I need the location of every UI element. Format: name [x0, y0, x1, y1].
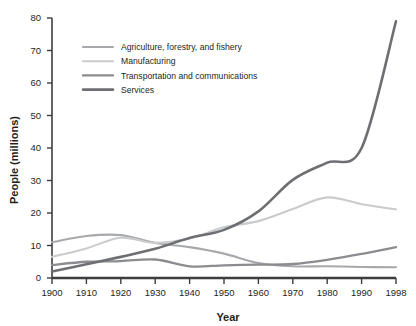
legend-label: Manufacturing [121, 56, 176, 66]
x-tick-label: 1910 [76, 287, 97, 298]
x-tick-label: 1950 [213, 287, 234, 298]
y-tick-label: 20 [30, 207, 41, 218]
x-tick-label: 1998 [385, 287, 406, 298]
chart-legend: Agriculture, forestry, and fisheryManufa… [83, 42, 257, 95]
y-tick-label: 40 [30, 142, 41, 153]
y-tick-label: 10 [30, 240, 41, 251]
series-line [52, 247, 396, 266]
x-tick-label: 1920 [110, 287, 131, 298]
legend-label: Transportation and communications [121, 71, 257, 81]
y-tick-label: 80 [30, 12, 41, 23]
x-tick-label: 1980 [317, 287, 338, 298]
x-tick-label: 1990 [351, 287, 372, 298]
x-tick-label: 1970 [282, 287, 303, 298]
y-axis-title: People (millions) [8, 116, 20, 204]
x-tick-label: 1930 [145, 287, 166, 298]
chart-canvas: 01020304050607080 1900191019201930194019… [0, 0, 416, 326]
series-line [52, 197, 396, 257]
y-axis-tick-labels: 01020304050607080 [30, 12, 41, 283]
y-tick-label: 30 [30, 175, 41, 186]
data-series-group [52, 21, 396, 271]
legend-label: Services [121, 85, 154, 95]
legend-label: Agriculture, forestry, and fishery [121, 42, 242, 52]
x-tick-label: 1900 [41, 287, 62, 298]
y-tick-label: 0 [36, 272, 41, 283]
y-tick-label: 60 [30, 77, 41, 88]
line-chart-figure: 01020304050607080 1900191019201930194019… [0, 0, 416, 326]
x-tick-label: 1960 [248, 287, 269, 298]
y-tick-label: 50 [30, 110, 41, 121]
x-axis-tick-labels: 1900191019201930194019501960197019801990… [41, 287, 406, 298]
y-tick-label: 70 [30, 45, 41, 56]
x-axis-title: Year [216, 311, 240, 323]
x-tick-label: 1940 [179, 287, 200, 298]
